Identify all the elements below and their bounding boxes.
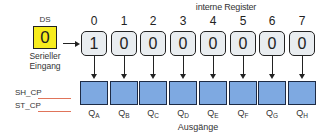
register-value: 0 <box>239 35 248 53</box>
arrow-down-icon <box>91 74 97 79</box>
output-label-d: QD <box>177 108 189 119</box>
output-label-f: QF <box>238 108 249 119</box>
storage-clock-label: ST_CP <box>15 101 41 110</box>
output-label-g: QG <box>266 108 278 119</box>
register-value: 0 <box>149 35 158 53</box>
output-label-h: QH <box>296 108 308 119</box>
register-value: 1 <box>90 35 99 53</box>
q-subscript: C <box>154 112 159 119</box>
q-label: Q <box>177 108 184 118</box>
register-cell-0: 1 <box>81 31 107 56</box>
down-arrow-line <box>153 56 154 74</box>
output-label-a: QA <box>88 108 99 119</box>
output-latch-c <box>139 81 167 105</box>
output-latch-d <box>169 81 197 105</box>
q-label: Q <box>88 108 95 118</box>
input-arrow-line <box>63 43 75 44</box>
output-latch-h <box>288 81 316 105</box>
register-cell-1: 0 <box>111 31 137 56</box>
register-cell-3: 0 <box>170 31 196 56</box>
down-arrow-line <box>272 56 273 74</box>
arrow-down-icon <box>180 74 186 79</box>
register-cell-5: 0 <box>230 31 256 56</box>
output-label-c: QC <box>147 108 159 119</box>
q-subscript: E <box>214 112 218 119</box>
register-index: 2 <box>150 14 157 28</box>
register-cell-6: 0 <box>259 31 285 56</box>
arrow-down-icon <box>240 74 246 79</box>
shift-clock-line <box>38 98 71 99</box>
q-label: Q <box>266 108 273 118</box>
register-index: 5 <box>240 14 247 28</box>
arrow-down-icon <box>299 74 305 79</box>
q-subscript: B <box>125 112 129 119</box>
output-latch-e <box>199 81 227 105</box>
arrow-down-icon <box>210 74 216 79</box>
q-label: Q <box>207 108 214 118</box>
internal-register-title: interne Register <box>196 2 256 12</box>
q-subscript: H <box>303 112 308 119</box>
outputs-label: Ausgänge <box>178 122 219 132</box>
register-index: 4 <box>210 14 217 28</box>
down-arrow-line <box>124 56 125 74</box>
down-arrow-line <box>94 56 95 74</box>
register-value: 0 <box>120 35 129 53</box>
down-arrow-line <box>243 56 244 74</box>
arrow-down-icon <box>121 74 127 79</box>
shift-clock-label: SH_CP <box>15 88 42 97</box>
arrow-down-icon <box>269 74 275 79</box>
serial-input-caption-line1: Serieller <box>29 51 60 61</box>
serial-input-box: 0 <box>33 26 57 49</box>
register-index: 1 <box>121 14 128 28</box>
storage-clock-line <box>38 111 71 112</box>
q-subscript: G <box>273 112 278 119</box>
output-latch-a <box>80 81 108 105</box>
output-latch-b <box>110 81 138 105</box>
register-value: 0 <box>298 35 307 53</box>
arrow-down-icon <box>150 74 156 79</box>
arrow-right-icon <box>75 41 80 47</box>
output-latch-g <box>258 81 286 105</box>
register-cell-4: 0 <box>200 31 226 56</box>
q-subscript: D <box>184 112 189 119</box>
q-label: Q <box>296 108 303 118</box>
q-subscript: A <box>95 112 99 119</box>
register-value: 0 <box>179 35 188 53</box>
q-label: Q <box>118 108 125 118</box>
register-cell-7: 0 <box>289 31 315 56</box>
register-index: 3 <box>180 14 187 28</box>
register-index: 6 <box>269 14 276 28</box>
q-label: Q <box>238 108 245 118</box>
down-arrow-line <box>183 56 184 74</box>
q-subscript: F <box>245 112 249 119</box>
output-label-e: QE <box>207 108 218 119</box>
down-arrow-line <box>213 56 214 74</box>
register-index: 0 <box>91 14 98 28</box>
output-label-b: QB <box>118 108 129 119</box>
register-index: 7 <box>299 14 306 28</box>
register-cell-2: 0 <box>140 31 166 56</box>
down-arrow-line <box>302 56 303 74</box>
ds-label: DS <box>39 15 50 24</box>
serial-input-caption-line2: Eingang <box>29 61 60 71</box>
register-value: 0 <box>268 35 277 53</box>
output-latch-f <box>229 81 257 105</box>
register-value: 0 <box>209 35 218 53</box>
serial-input-caption: Serieller Eingang <box>29 51 60 71</box>
serial-input-value: 0 <box>40 28 49 48</box>
q-label: Q <box>147 108 154 118</box>
